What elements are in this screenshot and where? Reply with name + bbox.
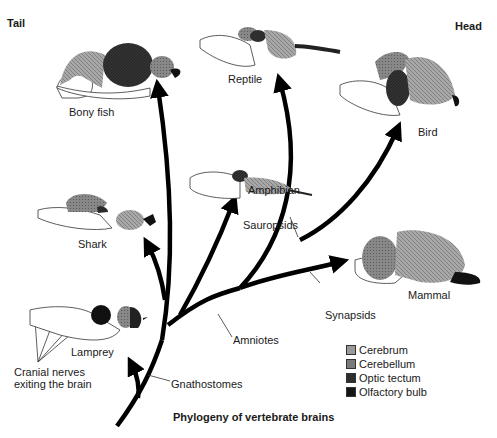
legend-item-cerebellum: Cerebellum bbox=[346, 357, 427, 371]
label-amniotes: Amniotes bbox=[233, 334, 279, 346]
label-shark: Shark bbox=[78, 238, 107, 250]
brain-shark bbox=[38, 194, 156, 230]
branch-shark bbox=[148, 245, 165, 300]
label-bird: Bird bbox=[418, 126, 438, 138]
label-amphibian: Amphibian bbox=[248, 184, 300, 196]
cerebellum-swatch-icon bbox=[346, 359, 356, 369]
cerebrum-swatch-icon bbox=[346, 345, 356, 355]
cranial-nerves-label: Cranial nerves exiting the brain bbox=[14, 366, 76, 390]
label-mammal: Mammal bbox=[408, 289, 450, 301]
optic-tectum-swatch-icon bbox=[346, 373, 356, 383]
branch-lamprey bbox=[132, 365, 139, 398]
branch-bony-fish bbox=[158, 88, 170, 340]
branch-amniote-stem bbox=[168, 288, 240, 325]
label-bony-fish: Bony fish bbox=[69, 106, 114, 118]
label-gnathostomes: Gnathostomes bbox=[171, 378, 243, 390]
head-label: Head bbox=[455, 20, 482, 32]
label-reptile: Reptile bbox=[228, 73, 262, 85]
label-lamprey: Lamprey bbox=[71, 346, 114, 358]
legend-item-cerebrum: Cerebrum bbox=[346, 343, 427, 357]
tail-label: Tail bbox=[7, 17, 25, 29]
brain-reptile bbox=[200, 27, 340, 66]
brain-bony-fish bbox=[57, 43, 180, 99]
legend-item-olfactory-bulb: Olfactory bulb bbox=[346, 385, 427, 399]
branch-mammal bbox=[240, 262, 340, 288]
legend: Cerebrum Cerebellum Optic tectum Olfacto… bbox=[346, 343, 427, 399]
brain-lamprey bbox=[30, 305, 148, 340]
label-synapsids: Synapsids bbox=[325, 309, 376, 321]
brain-bird bbox=[340, 52, 459, 116]
branch-bird bbox=[300, 130, 397, 240]
legend-item-optic-tectum: Optic tectum bbox=[346, 371, 427, 385]
diagram-title: Phylogeny of vertebrate brains bbox=[173, 411, 334, 423]
brain-mammal bbox=[355, 230, 480, 285]
olfactory-bulb-swatch-icon bbox=[346, 387, 356, 397]
label-sauropsids: Sauropsids bbox=[243, 219, 298, 231]
